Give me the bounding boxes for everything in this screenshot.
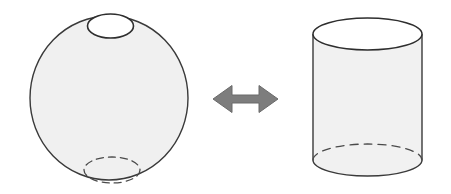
geometry-illustration	[0, 0, 451, 194]
cylinder-top-opening-icon	[313, 18, 422, 50]
open-cylinder	[313, 18, 422, 176]
figure-canvas	[0, 0, 451, 194]
sphere-top-opening-icon	[88, 14, 134, 38]
sphere-body	[30, 16, 188, 180]
